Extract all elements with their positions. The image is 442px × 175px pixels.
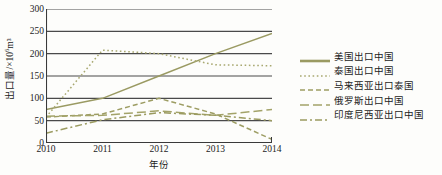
plot-area [46, 9, 272, 143]
x-tick-label: 2012 [139, 144, 179, 154]
y-tick-label: 300 [10, 4, 44, 14]
legend-item: 美国出口中国 [300, 50, 442, 65]
legend-swatch-canvas [300, 71, 330, 81]
legend-label: 俄罗斯出口中国 [334, 96, 404, 107]
y-tick-label: 150 [10, 71, 44, 81]
legend-swatch-canvas [300, 115, 330, 125]
x-tick-label: 2013 [196, 144, 236, 154]
x-axis-tick-labels: 20102011201220132014 [46, 144, 272, 158]
legend-swatch-canvas [300, 56, 330, 66]
legend-swatch-canvas [300, 85, 330, 95]
legend-line-swatch [300, 52, 330, 62]
chart-legend: 美国出口中国泰国出口中国马来西亚出口泰国俄罗斯出口中国印度尼西亚出口中国 [300, 50, 442, 123]
legend-swatch-canvas [300, 100, 330, 110]
x-tick-label: 2011 [83, 144, 123, 154]
y-axis-tick-labels: 300250200150100500 [8, 0, 44, 150]
legend-label: 美国出口中国 [334, 52, 394, 63]
legend-line-swatch [300, 81, 330, 91]
legend-item: 俄罗斯出口中国 [300, 94, 442, 109]
data-series-group [46, 34, 272, 140]
legend-line-swatch [300, 96, 330, 106]
y-tick-label: 250 [10, 26, 44, 36]
legend-line-swatch [300, 111, 330, 121]
legend-item: 印度尼西亚出口中国 [300, 108, 442, 123]
legend-label: 印度尼西亚出口中国 [334, 110, 424, 121]
legend-label: 马来西亚出口泰国 [334, 81, 414, 92]
x-tick-label: 2010 [26, 144, 66, 154]
gridlines [46, 9, 272, 121]
legend-line-swatch [300, 67, 330, 77]
series-line-3 [46, 98, 272, 139]
y-tick-label: 200 [10, 49, 44, 59]
series-line-2 [46, 50, 272, 117]
chart-canvas [46, 9, 272, 143]
x-axis-title: 年份 [46, 157, 272, 171]
legend-item: 马来西亚出口泰国 [300, 79, 442, 94]
legend-label: 泰国出口中国 [334, 66, 394, 77]
y-tick-label: 100 [10, 93, 44, 103]
chart-figure: 出口量/×106m³ 300250200150100500 2010201120… [0, 0, 442, 175]
legend-item: 泰国出口中国 [300, 65, 442, 80]
x-tick-label: 2014 [252, 144, 292, 154]
y-tick-label: 50 [10, 116, 44, 126]
